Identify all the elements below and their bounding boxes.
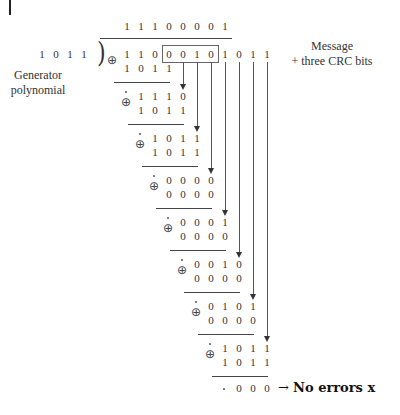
- page-margin-bar: [9, 0, 11, 15]
- quotient-bit: 1: [218, 20, 232, 32]
- result-line: → No errors x: [278, 381, 375, 395]
- step-bottom-bit: 0: [204, 188, 218, 200]
- step-bottom-bit: 1: [218, 356, 232, 368]
- step-bottom-bit: 0: [162, 146, 176, 158]
- step-top-bit: 0: [232, 342, 246, 354]
- bring-down-dot: [181, 259, 183, 261]
- step-bottom-bit: 0: [204, 314, 218, 326]
- step-top-bit: 1: [148, 90, 162, 102]
- xor-icon: ⊕: [148, 180, 160, 192]
- step-top-bit: 0: [162, 132, 176, 144]
- step-bottom-bit: 0: [190, 230, 204, 242]
- step-top-bit: 1: [260, 342, 274, 354]
- step-bottom-bit: 1: [176, 146, 190, 158]
- step-bottom-bit: 0: [204, 272, 218, 284]
- remainder-dot: [223, 388, 225, 390]
- divisor-bit: 1: [63, 48, 77, 60]
- step-top-bit: 0: [190, 258, 204, 270]
- step-top-bit: 0: [176, 216, 190, 228]
- step-bottom-bit: 0: [176, 188, 190, 200]
- remainder-bit: 0: [246, 382, 260, 394]
- step-top-bit: 1: [148, 132, 162, 144]
- step-top-bit: 0: [176, 174, 190, 186]
- divisor-bit: 1: [77, 48, 91, 60]
- xor-icon: ⊕: [106, 54, 118, 66]
- subtraction-line: [156, 208, 212, 209]
- divisor-bit: 0: [49, 48, 63, 60]
- step-top-bit: 0: [232, 258, 246, 270]
- subtraction-line: [128, 124, 184, 125]
- bring-down-arrow: [267, 62, 268, 336]
- bring-down-arrow: [183, 62, 184, 84]
- quotient-bit: 0: [190, 20, 204, 32]
- generator-label: Generator polynomial: [2, 68, 74, 98]
- bring-down-arrow: [211, 62, 212, 168]
- dividend-bit: 1: [120, 48, 134, 60]
- xor-icon: ⊕: [162, 222, 174, 234]
- division-overline: [100, 38, 232, 39]
- result-arrow-icon: →: [278, 380, 289, 395]
- quotient-bit: 0: [176, 20, 190, 32]
- quotient-bit: 1: [148, 20, 162, 32]
- message-label: Message + three CRC bits: [280, 39, 384, 69]
- step-top-bit: 1: [218, 258, 232, 270]
- step-top-bit: 1: [218, 342, 232, 354]
- step-top-bit: 1: [246, 342, 260, 354]
- step-top-bit: 0: [232, 300, 246, 312]
- subtraction-line: [212, 376, 268, 377]
- quotient-bit: 0: [162, 20, 176, 32]
- bring-down-dot: [167, 217, 169, 219]
- step-bottom-bit: 0: [190, 188, 204, 200]
- step-bottom-bit: 0: [204, 230, 218, 242]
- dividend-bit: 1: [246, 48, 260, 60]
- xor-icon: ⊕: [190, 306, 202, 318]
- step-top-bit: 1: [190, 132, 204, 144]
- step-bottom-bit: 0: [134, 62, 148, 74]
- subtraction-line: [142, 166, 198, 167]
- step-bottom-bit: 0: [246, 314, 260, 326]
- arrowhead-icon: [194, 126, 200, 132]
- step-bottom-bit: 0: [232, 314, 246, 326]
- step-bottom-bit: 1: [246, 356, 260, 368]
- remainder-bit: 0: [260, 382, 274, 394]
- step-bottom-bit: 1: [260, 356, 274, 368]
- step-bottom-bit: 1: [190, 146, 204, 158]
- xor-icon: ⊕: [204, 348, 216, 360]
- arrowhead-icon: [264, 336, 270, 342]
- bring-down-arrow: [225, 62, 226, 210]
- step-bottom-bit: 1: [134, 104, 148, 116]
- arrowhead-icon: [222, 210, 228, 216]
- quotient-bit: 0: [204, 20, 218, 32]
- step-bottom-bit: 0: [162, 188, 176, 200]
- step-bottom-bit: 0: [190, 272, 204, 284]
- step-bottom-bit: 1: [162, 62, 176, 74]
- arrowhead-icon: [208, 168, 214, 174]
- step-top-bit: 0: [204, 258, 218, 270]
- step-bottom-bit: 0: [176, 230, 190, 242]
- step-bottom-bit: 1: [148, 146, 162, 158]
- subtraction-line: [184, 292, 240, 293]
- step-top-bit: 0: [204, 216, 218, 228]
- dividend-bit: 1: [260, 48, 274, 60]
- remainder-bit: 0: [232, 382, 246, 394]
- bring-down-dot: [209, 343, 211, 345]
- step-top-bit: 1: [218, 300, 232, 312]
- arrowhead-icon: [250, 294, 256, 300]
- step-top-bit: 1: [246, 300, 260, 312]
- bring-down-dot: [139, 133, 141, 135]
- step-top-bit: 0: [204, 174, 218, 186]
- division-bracket: ): [97, 38, 106, 68]
- arrowhead-icon: [180, 84, 186, 90]
- step-bottom-bit: 1: [120, 62, 134, 74]
- result-text: No errors x: [293, 380, 375, 395]
- xor-icon: ⊕: [120, 96, 132, 108]
- step-top-bit: 1: [176, 132, 190, 144]
- step-top-bit: 0: [162, 174, 176, 186]
- step-top-bit: 1: [134, 90, 148, 102]
- step-bottom-bit: 0: [148, 104, 162, 116]
- dividend-bit: 1: [218, 48, 232, 60]
- step-bottom-bit: 1: [148, 62, 162, 74]
- step-bottom-bit: 1: [162, 104, 176, 116]
- bring-down-dot: [153, 175, 155, 177]
- step-top-bit: 0: [204, 300, 218, 312]
